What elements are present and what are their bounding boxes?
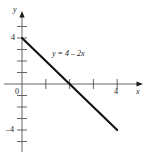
y-axis-label: y [13, 6, 17, 14]
y-axis-tick-label-negative-4: –4 [6, 126, 14, 134]
coordinate-plane [0, 0, 146, 156]
line-graph-figure: 4 –4 0 4 y x y = 4 – 2x [0, 0, 146, 156]
y-axis-arrowhead [19, 11, 24, 18]
x-axis-label: x [136, 88, 140, 96]
equation-annotation: y = 4 – 2x [52, 50, 85, 58]
y-axis-tick-label-4: 4 [11, 34, 15, 42]
x-axis-tick-label-4: 4 [114, 88, 118, 96]
x-axis-arrowhead [137, 81, 144, 86]
origin-label: 0 [15, 88, 19, 96]
